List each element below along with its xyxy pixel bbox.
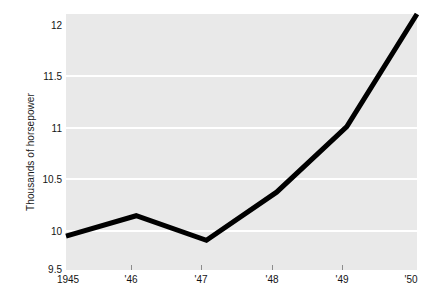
x-axis-ticks: 1945 '46 '47 '48 '49 '50	[0, 0, 436, 304]
x-tick-label: '48	[265, 274, 278, 285]
x-tick-label: '47	[194, 274, 207, 285]
x-tick-mark	[201, 265, 202, 270]
x-tick-label: 1945	[57, 274, 79, 285]
x-tick-mark	[342, 265, 343, 270]
x-tick-label: '46	[124, 274, 137, 285]
x-tick-mark	[272, 265, 273, 270]
x-tick-label: '49	[335, 274, 348, 285]
x-tick-label: '50	[404, 274, 417, 285]
x-tick-mark	[131, 265, 132, 270]
chart-figure: Thousands of horsepower 12 11.5 11 10.5 …	[0, 0, 436, 304]
